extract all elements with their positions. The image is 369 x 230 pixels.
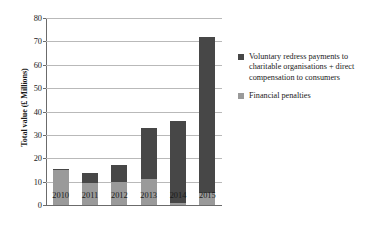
legend-swatch-icon (238, 54, 244, 60)
legend-item[interactable]: Voluntary redress payments to charitable… (238, 52, 366, 83)
y-axis-tick-label: 30 (34, 130, 42, 139)
legend-item[interactable]: Financial penalties (238, 91, 366, 101)
y-axis-tick-mark (43, 41, 46, 42)
gridline (46, 41, 222, 42)
x-axis-tick-label: 2014 (170, 191, 187, 200)
bar-segment[interactable] (111, 165, 127, 181)
gridline (46, 18, 222, 19)
y-axis-tick-label: 60 (34, 60, 42, 69)
gridline (46, 135, 222, 136)
x-axis-tick-label: 2011 (82, 191, 98, 200)
y-axis-tick-label: 20 (34, 154, 42, 163)
x-axis-baseline (46, 205, 222, 206)
gridline (46, 158, 222, 159)
plot-area: 01020304050607080 (46, 18, 222, 205)
y-axis-tick-mark (43, 65, 46, 66)
y-axis-tick-mark (43, 182, 46, 183)
gridline (46, 88, 222, 89)
y-axis-tick-label: 70 (34, 37, 42, 46)
y-axis-tick-label: 80 (34, 14, 42, 23)
chart-legend: Voluntary redress payments to charitable… (238, 52, 366, 110)
gridline (46, 112, 222, 113)
y-axis-tick-mark (43, 112, 46, 113)
y-axis-tick-mark (43, 135, 46, 136)
bar-segment[interactable] (141, 128, 157, 179)
gridline (46, 182, 222, 183)
bar-segment[interactable] (199, 37, 215, 193)
bar-stack[interactable] (82, 173, 98, 205)
y-axis-tick-mark (43, 205, 46, 206)
y-axis-tick-label: 50 (34, 84, 42, 93)
legend-label: Voluntary redress payments to charitable… (249, 52, 366, 83)
y-axis-tick-mark (43, 88, 46, 89)
bar-segment[interactable] (82, 173, 98, 183)
chart-container: Total value (£ Millions) 010203040506070… (0, 0, 369, 230)
y-axis-tick-label: 10 (34, 177, 42, 186)
bar-segment[interactable] (170, 203, 186, 205)
x-axis-tick-label: 2013 (140, 191, 157, 200)
y-axis-tick-mark (43, 18, 46, 19)
y-axis-tick-label: 0 (38, 201, 42, 210)
x-axis-tick-label: 2015 (199, 191, 216, 200)
x-axis-tick-label: 2010 (52, 191, 69, 200)
legend-label: Financial penalties (249, 91, 366, 101)
gridline (46, 65, 222, 66)
bar-stack[interactable] (199, 37, 215, 205)
y-axis-title: Total value (£ Millions) (20, 38, 29, 178)
x-axis-tick-label: 2012 (111, 191, 128, 200)
y-axis-tick-mark (43, 158, 46, 159)
legend-swatch-icon (238, 93, 244, 99)
y-axis-tick-label: 40 (34, 107, 42, 116)
